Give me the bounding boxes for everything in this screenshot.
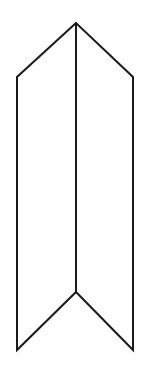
figure-canvas: Folded ribbon chevron line drawing A bla… (0, 0, 149, 374)
folded-ribbon-drawing (0, 0, 149, 374)
